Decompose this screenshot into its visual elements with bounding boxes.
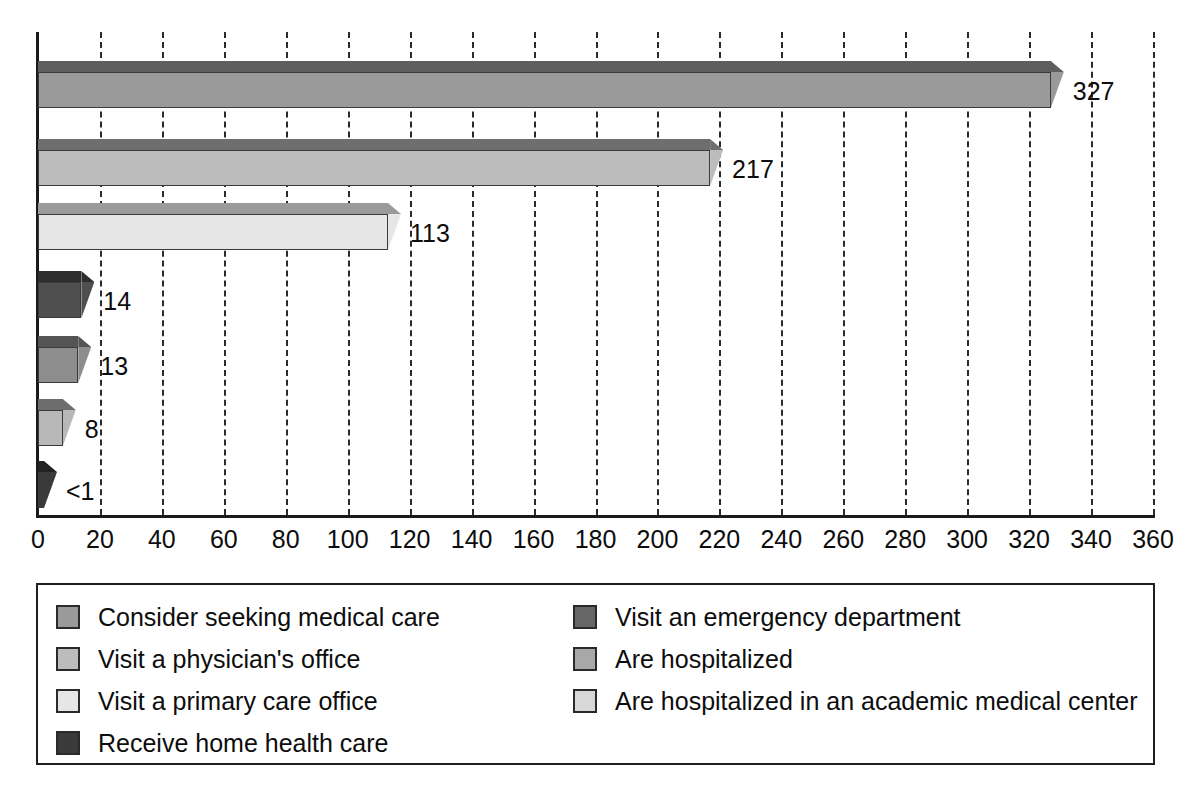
x-axis-tick-label: 40 <box>148 524 176 554</box>
bar-top-face <box>38 139 710 150</box>
bar-front-face <box>38 410 63 446</box>
bar <box>38 347 78 383</box>
legend-item[interactable]: Are hospitalized in an academic medical … <box>573 682 1138 720</box>
x-axis-tick-label: 300 <box>946 524 988 554</box>
x-axis-tick-label: 360 <box>1132 524 1174 554</box>
x-axis-tick-label: 220 <box>699 524 741 554</box>
bar-top-bevel <box>388 203 401 214</box>
x-axis-tick-label: 260 <box>822 524 864 554</box>
legend-item[interactable]: Visit a primary care office <box>56 682 440 720</box>
bar-front-face <box>38 282 81 318</box>
legend-item-label: Are hospitalized <box>615 645 793 673</box>
legend-item[interactable]: Visit a physician's office <box>56 640 440 678</box>
legend-item[interactable]: Receive home health care <box>56 724 440 762</box>
bar-top-face <box>38 271 81 282</box>
bar <box>38 72 1051 108</box>
legend-swatch-icon <box>573 647 597 671</box>
bar <box>38 150 710 186</box>
x-axis-tick-label: 280 <box>884 524 926 554</box>
bar-top-bevel <box>1051 61 1064 72</box>
bar-value-label: 113 <box>410 219 450 247</box>
bar-front-face <box>38 214 388 250</box>
bar-top-face <box>38 461 44 472</box>
bar-side-face <box>78 347 91 383</box>
legend-swatch-icon <box>573 605 597 629</box>
bar-top-bevel <box>81 271 94 282</box>
bar-top-face <box>38 203 388 214</box>
x-axis-tick-label: 180 <box>575 524 617 554</box>
x-axis-line <box>36 515 1155 518</box>
bar-chart: 32721711314138<1 02040608010012014016018… <box>0 0 1187 788</box>
x-axis-tick-label: 200 <box>637 524 679 554</box>
legend-column-left: Consider seeking medical careVisit a phy… <box>56 598 440 766</box>
legend-swatch-icon <box>56 605 80 629</box>
x-axis-tick-label: 240 <box>760 524 802 554</box>
legend-swatch-icon <box>573 689 597 713</box>
legend-item-label: Are hospitalized in an academic medical … <box>615 687 1138 715</box>
gridline <box>1153 32 1155 515</box>
bar-side-face <box>44 472 57 508</box>
legend-item-label: Consider seeking medical care <box>98 603 440 631</box>
bar-front-face <box>38 72 1051 108</box>
x-axis-tick-label: 320 <box>1008 524 1050 554</box>
legend-item[interactable]: Consider seeking medical care <box>56 598 440 636</box>
x-axis-tick-label: 120 <box>389 524 431 554</box>
legend-item-label: Visit a primary care office <box>98 687 378 715</box>
bar-value-label: <1 <box>66 477 95 505</box>
x-axis-tick-label: 20 <box>86 524 114 554</box>
legend-item[interactable]: Visit an emergency department <box>573 598 1138 636</box>
bar-side-face <box>63 410 76 446</box>
bar-front-face <box>38 347 78 383</box>
bar-value-label: 13 <box>100 352 128 380</box>
bar-top-face <box>38 61 1051 72</box>
bar-value-label: 14 <box>103 287 131 315</box>
x-axis-tick-label: 80 <box>272 524 300 554</box>
bar-top-face <box>38 336 78 347</box>
bar-top-face <box>38 399 63 410</box>
bar-side-face <box>81 282 94 318</box>
bar-top-bevel <box>78 336 91 347</box>
bar-front-face <box>38 150 710 186</box>
bar <box>38 472 44 508</box>
legend-swatch-icon <box>56 647 80 671</box>
bar-top-bevel <box>63 399 76 410</box>
legend-item-label: Visit a physician's office <box>98 645 360 673</box>
bar-value-label: 8 <box>85 415 99 443</box>
bar-value-label: 327 <box>1073 77 1115 105</box>
x-axis-tick-label: 60 <box>210 524 238 554</box>
x-axis-tick-label: 100 <box>327 524 369 554</box>
bar-front-face <box>38 472 44 508</box>
x-axis-tick-label: 0 <box>31 524 45 554</box>
bar-top-bevel <box>44 461 57 472</box>
x-axis-tick-label: 340 <box>1070 524 1112 554</box>
x-axis-tick-label: 140 <box>451 524 493 554</box>
bar <box>38 214 388 250</box>
bar-value-label: 217 <box>732 155 774 183</box>
legend-swatch-icon <box>56 689 80 713</box>
legend-column-right: Visit an emergency departmentAre hospita… <box>573 598 1138 724</box>
bar-side-face <box>1051 72 1064 108</box>
bar <box>38 282 81 318</box>
legend-swatch-icon <box>56 731 80 755</box>
bar <box>38 410 63 446</box>
x-axis-tick-label: 160 <box>513 524 555 554</box>
legend: Consider seeking medical careVisit a phy… <box>36 583 1155 765</box>
legend-item[interactable]: Are hospitalized <box>573 640 1138 678</box>
bar-side-face <box>388 214 401 250</box>
plot-area: 32721711314138<1 02040608010012014016018… <box>36 32 1155 518</box>
legend-item-label: Receive home health care <box>98 729 388 757</box>
legend-item-label: Visit an emergency department <box>615 603 961 631</box>
